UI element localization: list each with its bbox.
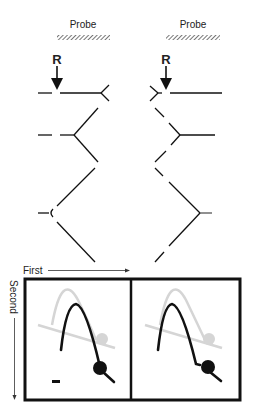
left-short-bar [52, 380, 60, 383]
right-restriction-map: Probe R [150, 19, 222, 262]
right-fragment-lines [150, 86, 222, 262]
left-fragment-lines [38, 85, 109, 262]
left-restriction-map: Probe R [38, 19, 110, 262]
left-black-spot [93, 361, 107, 375]
second-dimension-arrow-icon [13, 318, 17, 400]
second-dimension-label: Second [8, 280, 19, 314]
left-site-label: R [52, 52, 62, 67]
right-probe-label: Probe [180, 19, 207, 30]
diagram-canvas: Probe R Probe [0, 0, 253, 417]
left-panel [38, 289, 115, 383]
right-black-spot [201, 360, 215, 374]
first-dimension-arrow-icon [48, 269, 130, 273]
right-probe-bar [166, 35, 220, 40]
left-site-arrow-icon [51, 66, 63, 90]
two-dimensional-gel-figure: First Second [8, 265, 240, 400]
right-site-arrow-icon [160, 66, 172, 90]
left-probe-bar [57, 35, 110, 40]
left-probe-label: Probe [70, 19, 97, 30]
right-site-label: R [161, 52, 171, 67]
left-faint-arc [38, 289, 115, 348]
right-panel [145, 289, 222, 381]
first-dimension-label: First [23, 265, 43, 276]
